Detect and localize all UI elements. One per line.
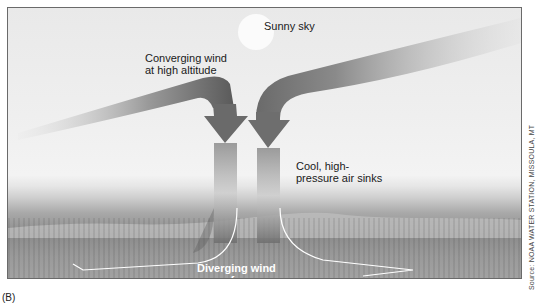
label-sinks-1: Cool, high-: [296, 160, 349, 172]
sinking-column-right: [257, 148, 280, 243]
sinking-column-left: [214, 143, 237, 243]
label-diverging-2: on surface: [197, 274, 253, 279]
label-sinks-2: pressure air sinks: [296, 172, 382, 184]
down-arrow-right: [248, 112, 290, 148]
down-arrow-left: [204, 104, 248, 143]
converging-wind-left-band: [18, 76, 234, 140]
label-diverging-1: Diverging wind: [197, 262, 276, 274]
diagram-panel: Sunny sky Converging wind at high altitu…: [7, 7, 522, 279]
airflow-arrows: [8, 8, 521, 278]
diverging-wind-right-line: [280, 208, 413, 276]
label-sunny-sky: Sunny sky: [264, 20, 315, 32]
converging-wind-right-band: [256, 18, 521, 118]
label-converging-1: Converging wind: [145, 52, 227, 64]
source-credit: Source: NOAA WATER STATION, MISSOULA, MT: [528, 125, 535, 290]
panel-label: (B): [2, 292, 15, 303]
label-converging-2: at high altitude: [145, 64, 217, 76]
